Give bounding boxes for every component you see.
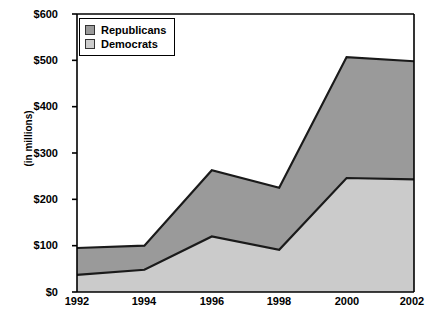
x-tick-label-1996: 1996 xyxy=(182,294,242,308)
x-tick-label-1992: 1992 xyxy=(47,294,107,308)
x-tick-label-1994: 1994 xyxy=(114,294,174,308)
stacked-area-chart: (in millions) $600 $500 $400 $300 $200 $… xyxy=(0,0,431,313)
x-tick-label-2000: 2000 xyxy=(317,294,377,308)
legend-label-republicans: Republicans xyxy=(101,25,166,36)
legend-item-democrats: Democrats xyxy=(85,37,166,51)
legend-label-democrats: Democrats xyxy=(101,39,158,50)
legend-swatch-democrats-icon xyxy=(85,39,95,49)
legend-swatch-republicans-icon xyxy=(85,25,95,35)
x-tick-label-2002: 2002 xyxy=(382,294,431,308)
x-axis-tick-labels: 1992 1994 1996 1998 2000 2002 xyxy=(0,294,431,313)
chart-legend: Republicans Democrats xyxy=(79,18,175,56)
x-tick-label-1998: 1998 xyxy=(249,294,309,308)
legend-item-republicans: Republicans xyxy=(85,23,166,37)
plot-area xyxy=(0,0,431,313)
series-layer xyxy=(77,57,414,292)
